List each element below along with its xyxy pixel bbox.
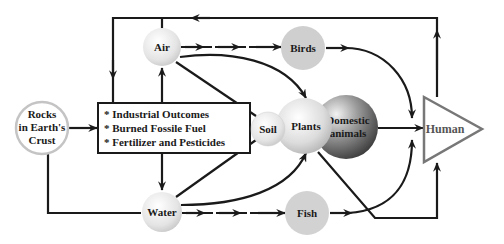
source-item-industrial: * Industrial Outcomes [104,108,210,120]
human-label: Human [426,122,465,136]
birds-label: Birds [290,42,316,54]
sources-box: * Industrial Outcomes * Burned Fossile F… [98,103,250,153]
domestic-line-1: Domestic [326,114,369,126]
node-human: Human [424,97,482,162]
domestic-line-2: animals [330,127,367,139]
edge-plants-to-human [318,152,437,218]
fish-label: Fish [297,207,317,219]
rocks-line-2: in Earth's [19,121,66,133]
plants-label: Plants [291,120,321,132]
node-rocks: Rocks in Earth's Crust [16,102,68,154]
node-air: Air [143,28,181,66]
source-item-fossil-fuel: * Burned Fossile Fuel [104,122,206,134]
source-item-fertilizer: * Fertilizer and Pesticides [104,136,226,148]
soil-label: Soil [259,123,277,135]
node-fish: Fish [285,191,329,235]
air-label: Air [154,41,170,53]
node-birds: Birds [281,26,325,70]
pollution-flow-diagram: Rocks in Earth's Crust * Industrial Outc… [0,0,504,244]
edge-rocks-to-water [48,154,141,213]
rocks-line-3: Crust [29,134,56,146]
node-water: Water [142,192,182,232]
water-label: Water [147,206,176,218]
node-soil: Soil [251,112,285,146]
rocks-line-1: Rocks [28,108,57,120]
